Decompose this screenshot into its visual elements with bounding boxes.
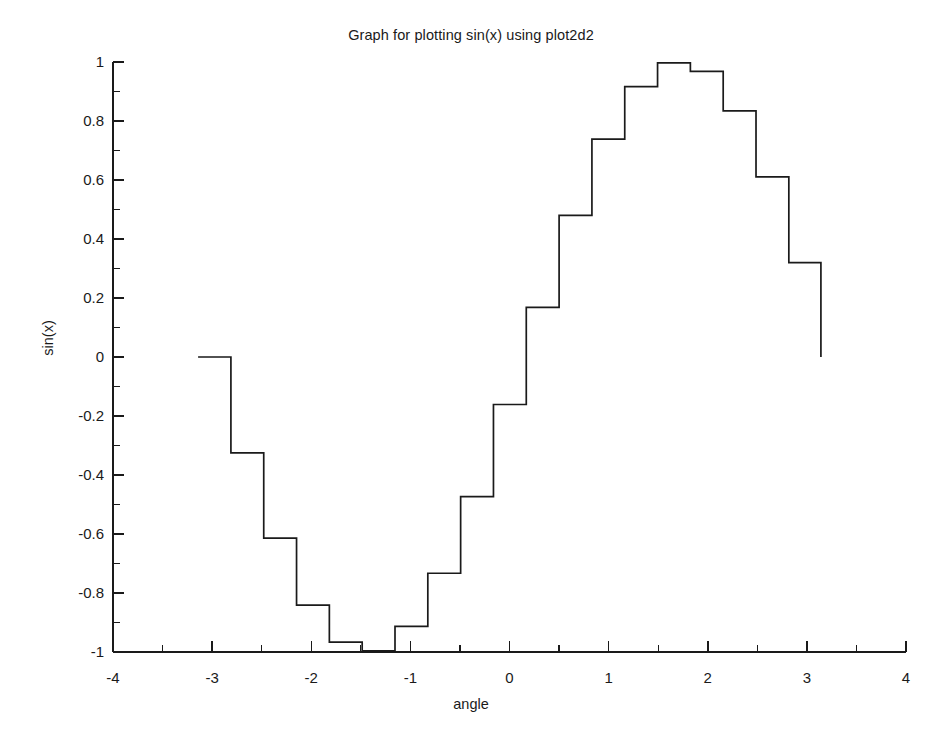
y-axis-tick-label: -0.2 [78,407,104,424]
x-axis-tick-label: -2 [305,669,318,686]
y-axis-tick-label: 0.6 [83,171,104,188]
axes-group [113,62,906,652]
y-axis-tick-label: 0.8 [83,112,104,129]
x-axis-tick-label: 4 [902,669,910,686]
y-axis-label: sin(x) [40,278,56,398]
x-axis-tick-label: 1 [604,669,612,686]
x-axis-label: angle [0,696,942,712]
axis-tick-labels-group: -4-3-2-101234-1-0.8-0.6-0.4-0.200.20.40.… [78,53,910,686]
x-axis-tick-label: 3 [803,669,811,686]
y-axis-tick-label: -0.4 [78,466,104,483]
plot-figure: Graph for plotting sin(x) using plot2d2 … [0,0,942,756]
y-axis-tick-label: 0.4 [83,230,104,247]
chart-canvas: -4-3-2-101234-1-0.8-0.6-0.4-0.200.20.40.… [0,0,942,756]
y-axis-tick-label: -0.8 [78,584,104,601]
x-axis-tick-label: -4 [106,669,119,686]
x-axis-tick-label: 2 [704,669,712,686]
x-axis-tick-label: -3 [205,669,218,686]
x-axis-tick-label: -1 [404,669,417,686]
data-series-line [198,63,821,651]
data-series-group [198,63,821,651]
x-axis-tick-label: 0 [505,669,513,686]
y-axis-tick-label: -0.6 [78,525,104,542]
axis-ticks-group [113,62,906,652]
y-axis-tick-label: 0 [96,348,104,365]
y-axis-tick-label: 0.2 [83,289,104,306]
y-axis-tick-label: -1 [91,643,104,660]
y-axis-tick-label: 1 [96,53,104,70]
